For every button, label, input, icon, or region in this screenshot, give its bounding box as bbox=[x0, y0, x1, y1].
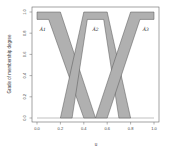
x-tick-label: 0.6 bbox=[104, 126, 110, 131]
x-tick-label: 0.8 bbox=[128, 126, 134, 131]
x-tick-label: 1.0 bbox=[151, 126, 157, 131]
y-tick-label: 0.2 bbox=[22, 93, 27, 99]
x-tick-label: 0.0 bbox=[34, 126, 40, 131]
mf-label-1: Ã1 bbox=[39, 26, 46, 32]
y-tick-label: 1.0 bbox=[22, 8, 27, 14]
mf-label-2: Ã2 bbox=[91, 26, 98, 32]
x-tick-label: 0.4 bbox=[81, 126, 87, 131]
y-axis-label: Grade of membership degree bbox=[7, 34, 12, 93]
plot-area: Ã1Ã2Ã30.00.20.40.60.81.00.00.20.40.60.81… bbox=[22, 7, 159, 131]
y-tick-label: 0.6 bbox=[22, 51, 27, 57]
y-tick-label: 0.8 bbox=[22, 30, 27, 36]
x-tick-label: 0.2 bbox=[58, 126, 64, 131]
x-axis-label: u bbox=[95, 142, 98, 147]
y-tick-label: 0.4 bbox=[22, 72, 27, 78]
mf-label-3: Ã3 bbox=[142, 26, 149, 32]
y-tick-label: 0.0 bbox=[22, 114, 27, 120]
membership-chart: Ã1Ã2Ã30.00.20.40.60.81.00.00.20.40.60.81… bbox=[0, 0, 171, 155]
